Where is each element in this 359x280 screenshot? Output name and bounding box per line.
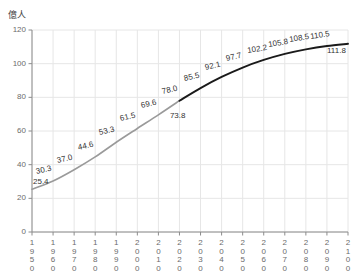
x-tick-label: 1 9 6 0 [49, 239, 58, 273]
data-point-label: 111.8 [327, 46, 346, 55]
x-tick-label: 2 1 0 0 [344, 239, 353, 273]
data-point-label: 73.8 [170, 111, 186, 120]
x-tick-label: 1 9 8 0 [91, 239, 100, 273]
x-tick-label: 1 9 9 0 [112, 239, 121, 273]
line-series-actual [32, 101, 179, 190]
x-tick-label: 2 0 4 0 [217, 239, 226, 273]
x-tick-label: 1 9 7 0 [70, 239, 79, 273]
x-tick-label: 2 0 2 0 [175, 239, 184, 273]
x-tick-label: 2 0 1 0 [154, 239, 163, 273]
y-tick-label: 60 [4, 126, 26, 135]
x-tick-label: 2 0 7 0 [280, 239, 289, 273]
population-line-chart: 億人 020406080100120 1 9 5 01 9 6 01 9 7 0… [0, 0, 359, 280]
tick-marks [29, 30, 349, 236]
y-tick-label: 100 [4, 59, 26, 68]
y-tick-label: 40 [4, 160, 26, 169]
y-tick-label: 0 [4, 227, 26, 236]
y-tick-label: 20 [4, 193, 26, 202]
gridlines [32, 30, 348, 232]
x-tick-label: 2 0 0 0 [133, 239, 142, 273]
x-tick-label: 2 0 5 0 [238, 239, 247, 273]
data-point-label: 25.4 [33, 177, 49, 186]
x-tick-label: 2 0 6 0 [259, 239, 268, 273]
y-tick-label: 120 [4, 25, 26, 34]
x-tick-label: 1 9 5 0 [28, 239, 37, 273]
x-tick-label: 2 0 3 0 [196, 239, 205, 273]
y-tick-label: 80 [4, 92, 26, 101]
x-tick-label: 2 0 8 0 [301, 239, 310, 273]
x-tick-label: 2 0 9 0 [322, 239, 331, 273]
